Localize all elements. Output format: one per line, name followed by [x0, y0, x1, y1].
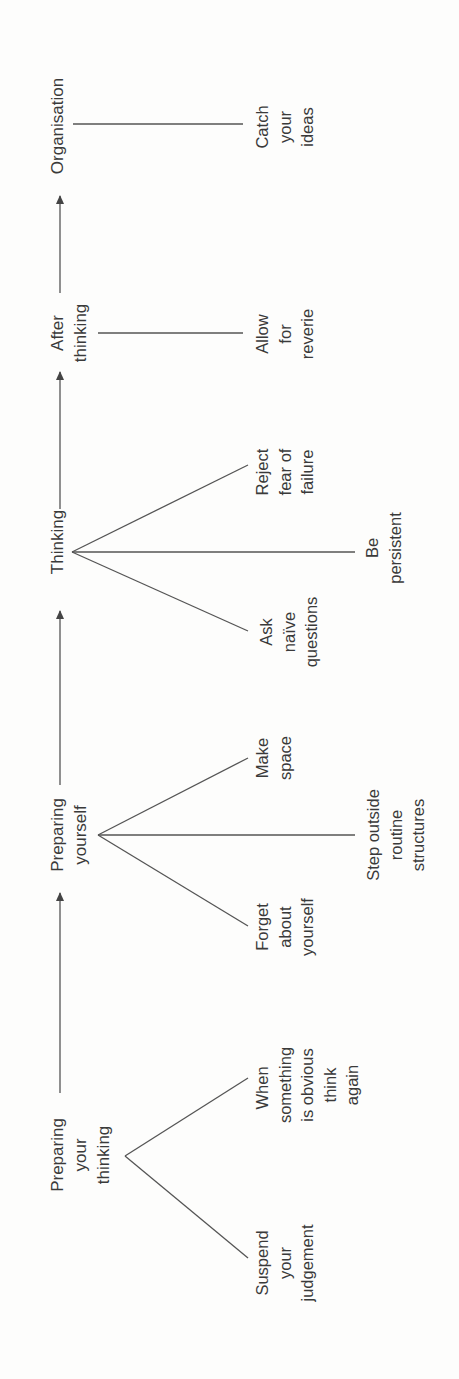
- label-line: structures: [409, 799, 427, 871]
- label-line: Thinking: [48, 510, 67, 574]
- label-line: about: [276, 906, 294, 948]
- label-line: thinking: [94, 1126, 113, 1185]
- node-label-suspend-your-judgement: Suspend your judgement: [253, 1224, 316, 1302]
- label-line: Preparing: [48, 798, 67, 872]
- branch-ask: [72, 552, 248, 631]
- labels: Organisation Catch your ideas After thin…: [48, 78, 428, 1303]
- label-line: judgement: [298, 1224, 316, 1302]
- node-label-make-space: Make space: [253, 736, 294, 780]
- label-line: Suspend: [253, 1230, 271, 1295]
- label-line: your: [276, 1246, 294, 1279]
- label-line: your: [71, 1138, 90, 1171]
- node-label-catch-your-ideas: Catch your ideas: [253, 105, 316, 148]
- stage-label-thinking: Thinking: [48, 510, 67, 574]
- label-line: space: [276, 736, 294, 780]
- label-line: fear of: [276, 448, 294, 495]
- label-line: thinking: [71, 304, 90, 363]
- label-line: questions: [302, 597, 320, 668]
- stage-label-preparing-yourself: Preparing yourself: [48, 798, 90, 872]
- label-line: Ask: [257, 618, 275, 646]
- node-label-when-something-is-obvious: When something is obvious think again: [253, 1047, 361, 1123]
- branch-suspend: [125, 1156, 248, 1258]
- branch-make-space: [98, 758, 248, 835]
- label-line: think: [321, 1067, 339, 1103]
- branch-reject: [72, 465, 248, 552]
- node-label-step-outside-routine-structures: Step outside routine structures: [364, 789, 427, 881]
- label-line: When: [253, 1066, 271, 1109]
- label-line: Preparing: [48, 1118, 67, 1192]
- label-line: Forget: [253, 903, 271, 951]
- label-line: for: [276, 324, 294, 344]
- stage-label-organisation: Organisation: [48, 78, 67, 174]
- label-line: Catch: [253, 105, 271, 148]
- label-line: is obvious: [298, 1048, 316, 1121]
- stage-label-preparing-your-thinking: Preparing your thinking: [48, 1118, 113, 1192]
- label-line: Be: [363, 538, 381, 558]
- label-line: Organisation: [48, 78, 67, 174]
- label-line: Reject: [253, 448, 271, 495]
- label-line: naïve: [280, 612, 298, 652]
- label-line: Make: [253, 738, 271, 778]
- label-line: your: [276, 110, 294, 143]
- node-label-allow-for-reverie: Allow for reverie: [253, 309, 316, 359]
- label-line: again: [343, 1065, 361, 1105]
- label-line: routine: [387, 810, 405, 860]
- label-line: After: [48, 315, 67, 351]
- label-line: reverie: [298, 309, 316, 359]
- label-line: Allow: [253, 314, 271, 354]
- label-line: something: [276, 1047, 294, 1123]
- node-label-ask-naive-questions: Ask naïve questions: [257, 597, 320, 668]
- creative-process-diagram: Organisation Catch your ideas After thin…: [0, 0, 459, 1379]
- label-line: yourself: [71, 805, 90, 865]
- label-line: persistent: [386, 512, 404, 584]
- label-line: Step outside: [364, 789, 382, 881]
- branch-when-obvious: [125, 1078, 248, 1156]
- label-line: yourself: [298, 898, 316, 956]
- node-label-be-persistent: Be persistent: [363, 512, 404, 584]
- branch-forget: [98, 835, 248, 926]
- node-label-forget-about-yourself: Forget about yourself: [253, 898, 316, 956]
- node-label-reject-fear-of-failure: Reject fear of failure: [253, 448, 316, 495]
- stage-label-after-thinking: After thinking: [48, 304, 90, 363]
- label-line: failure: [298, 450, 316, 495]
- label-line: ideas: [298, 107, 316, 146]
